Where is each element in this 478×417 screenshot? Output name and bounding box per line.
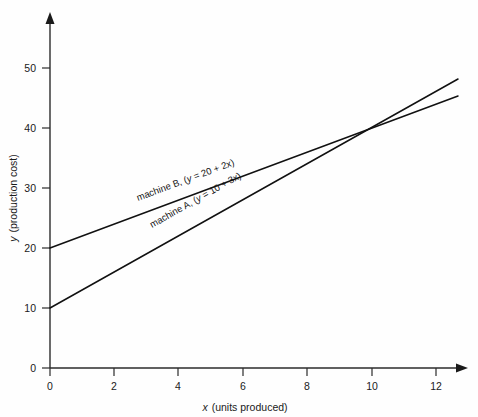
series-labels-group: machine B, (y = 20 + 2x) machine A, (y =…	[135, 156, 243, 229]
y-tick-label: 10	[24, 302, 36, 314]
y-axis-title-text: (production cost)	[7, 154, 19, 232]
x-tick-label: 6	[240, 380, 246, 392]
chart-container: 0 10 20 30 40 50 0 2 4 6 8 10 12	[0, 0, 478, 417]
y-axis-arrow-icon	[46, 12, 55, 24]
x-tick-label: 2	[111, 380, 117, 392]
line-chart-svg: 0 10 20 30 40 50 0 2 4 6 8 10 12	[0, 0, 478, 417]
y-tick-label: 50	[24, 62, 36, 74]
x-tick-label: 8	[304, 380, 310, 392]
series-label-machine-a-prefix: machine A, (	[148, 194, 200, 230]
data-series-group	[50, 79, 458, 308]
series-line-machine-a	[50, 79, 458, 308]
y-axis-title: y(production cost)	[7, 154, 19, 242]
x-axis-title-text: (units produced)	[212, 401, 288, 413]
y-tick-label: 20	[24, 242, 36, 254]
x-axis-title: x(units produced)	[201, 401, 287, 413]
x-tick-label: 12	[430, 380, 442, 392]
x-axis-ticks: 0 2 4 6 8 10 12	[47, 368, 442, 392]
x-axis-arrow-icon	[456, 364, 468, 373]
x-tick-label: 4	[175, 380, 181, 392]
y-axis-title-variable: y	[7, 236, 19, 243]
x-tick-label: 10	[366, 380, 378, 392]
x-tick-label: 0	[47, 380, 53, 392]
y-axis-ticks: 0 10 20 30 40 50	[24, 62, 50, 374]
y-tick-label: 40	[24, 122, 36, 134]
x-axis-title-variable: x	[201, 401, 208, 413]
y-tick-label: 30	[24, 182, 36, 194]
series-line-machine-b	[50, 96, 458, 248]
y-tick-label: 0	[30, 362, 36, 374]
